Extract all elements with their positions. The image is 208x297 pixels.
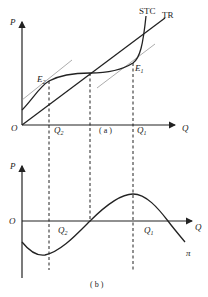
e1-label: E1: [134, 63, 144, 74]
panel-b-q1-label: Q1: [144, 225, 154, 236]
panel-b-y-label: P: [9, 161, 16, 171]
panel-a-origin-label: O: [11, 123, 18, 133]
stc-label: STC: [139, 6, 156, 16]
panel-b: P Q O π Q2 Q1 ( b ): [9, 161, 202, 289]
profit-curve: [22, 194, 185, 255]
panel-a-caption: ( a ): [99, 126, 112, 135]
panel-a-x-label: Q: [182, 123, 189, 133]
profit-maximization-diagram: P Q O STC TR E2 E1 Q2 Q1 ( a ) P Q O π Q…: [0, 0, 208, 297]
stc-curve: [22, 16, 146, 110]
panel-a-q1-label: Q1: [137, 125, 147, 136]
panel-b-origin-label: O: [9, 216, 16, 226]
tr-label: TR: [162, 10, 174, 20]
panel-a-y-label: P: [9, 17, 16, 27]
panel-b-q2-label: Q2: [58, 225, 68, 236]
panel-b-x-label: Q: [195, 222, 202, 232]
e2-label: E2: [36, 74, 46, 85]
profit-label: π: [186, 248, 191, 258]
panel-a: P Q O STC TR E2 E1 Q2 Q1 ( a ): [9, 6, 189, 270]
tangent-line-e1: [97, 44, 155, 88]
panel-a-q2-label: Q2: [54, 125, 64, 136]
panel-b-caption: ( b ): [90, 280, 104, 289]
